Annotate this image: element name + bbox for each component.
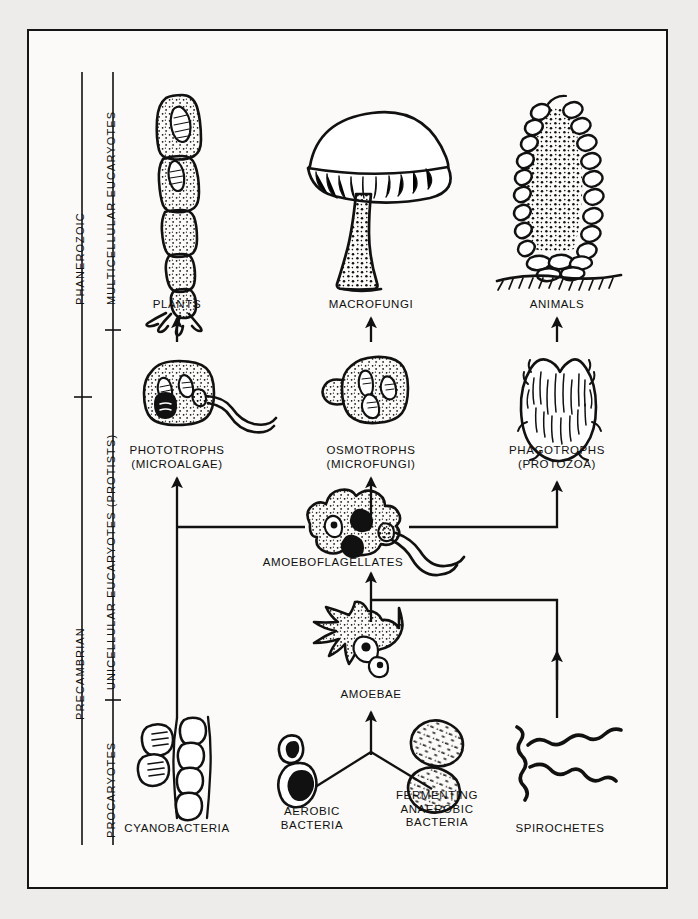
spirochete-icon [517, 727, 621, 800]
grade-multicellular: MULTICELLULAR EUCARYOTES [105, 111, 117, 305]
diagram-page: PHANEROZOIC PRECAMBRIAN MULTICELLULAR EU… [0, 0, 698, 919]
node-aerobic-bacteria-label: AEROBIC BACTERIA [262, 805, 362, 832]
aerobic-bacteria-icon [278, 735, 316, 807]
era-precambrian: PRECAMBRIAN [74, 627, 86, 720]
link-amoeboflagellates-to-phagotrophs [409, 482, 557, 527]
link-aerobic-to-amoebae [312, 752, 371, 789]
flagellated-algal-cell-icon [144, 361, 276, 432]
amoeba-icon [314, 602, 403, 677]
node-macrofungi-label: MACROFUNGI [316, 298, 426, 312]
node-phototrophs-label: PHOTOTROPHS (MICROALGAE) [112, 444, 242, 471]
node-spirochetes-label: SPIROCHETES [505, 822, 615, 836]
grade-unicellular: UNICELLULAR EUCARYOTES (PROTISTS) [105, 434, 117, 690]
node-amoebae-label: AMOEBAE [326, 688, 416, 702]
node-fermenting-bacteria-label: FERMENTING ANAEROBIC BACTERIA [382, 789, 492, 830]
node-plants-label: PLANTS [127, 298, 227, 312]
node-phagotrophs-label: PHAGOTROPHS (PROTOZOA) [492, 444, 622, 471]
node-cyanobacteria-label: CYANOBACTERIA [112, 822, 242, 836]
node-animals-label: ANIMALS [507, 298, 607, 312]
mushroom-icon [308, 112, 451, 291]
sponge-icon [497, 96, 621, 290]
budding-fungal-cell-icon [323, 357, 409, 423]
node-osmotrophs-label: OSMOTROPHS (MICROFUNGI) [306, 444, 436, 471]
era-phanerozoic: PHANEROZOIC [74, 212, 86, 305]
cyanobacteria-icon [138, 717, 211, 820]
node-amoeboflagellates-label: AMOEBOFLAGELLATES [243, 556, 423, 570]
